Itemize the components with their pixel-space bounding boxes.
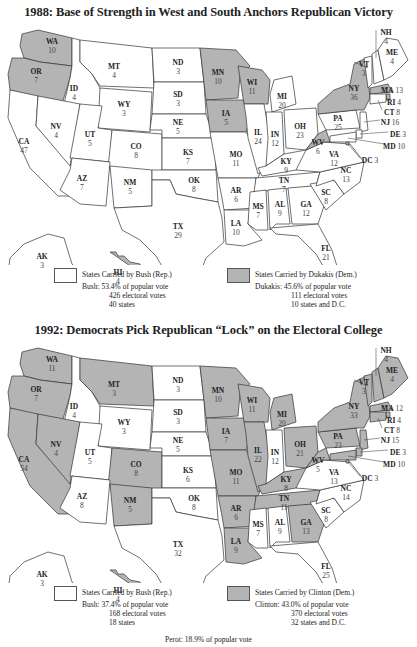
state-abbrev: DC xyxy=(362,474,373,483)
electoral-votes: 7 xyxy=(30,394,41,403)
state-label-nv: NV4 xyxy=(51,440,62,458)
state-label-tn: TN7 xyxy=(279,176,289,194)
state-label-va: VA13 xyxy=(329,468,339,486)
electoral-votes: 15 xyxy=(392,436,400,445)
electoral-votes: 25 xyxy=(321,571,331,580)
electoral-votes: 3 xyxy=(118,109,131,118)
electoral-votes: 8 xyxy=(396,426,400,435)
electoral-votes: 4 xyxy=(397,98,401,107)
state-abbrev: SC xyxy=(321,506,331,515)
electoral-votes: 5 xyxy=(173,127,183,136)
electoral-votes: 33 xyxy=(349,411,360,420)
state-label-pa: PA25 xyxy=(333,114,342,132)
state-label-mn: MN10 xyxy=(212,386,225,404)
legend-swatch-republican xyxy=(54,586,77,601)
state-label-ak: AK3 xyxy=(36,252,47,270)
state-abbrev: NY xyxy=(349,402,360,411)
state-label-ok: OK8 xyxy=(188,494,200,512)
state-abbrev: ND xyxy=(173,58,184,67)
legend-caption: States Carried by Clinton (Dem.) xyxy=(255,588,354,597)
electoral-votes: 32 xyxy=(173,549,183,558)
us-map-1992 xyxy=(0,318,417,583)
electoral-votes: 4 xyxy=(386,375,398,384)
state-abbrev: ND xyxy=(173,376,184,385)
legend-states: 32 states and D.C. xyxy=(255,618,349,627)
electoral-votes: 3 xyxy=(402,448,406,457)
state-label-oh: OH23 xyxy=(294,122,306,140)
state-label-mo: MO11 xyxy=(230,150,243,168)
state-abbrev: NJ xyxy=(381,118,390,127)
electoral-votes: 4 xyxy=(386,57,398,66)
state-label-ca: CA47 xyxy=(19,137,30,155)
state-label-wa: WA11 xyxy=(46,355,58,373)
state-abbrev: VA xyxy=(329,150,339,159)
state-label-tn: TN11 xyxy=(279,494,289,512)
electoral-votes: 3 xyxy=(36,261,47,270)
state-label-me: ME4 xyxy=(386,48,398,66)
state-abbrev: AZ xyxy=(77,492,87,501)
state-abbrev: KS xyxy=(183,466,193,475)
state-label-wy: WY3 xyxy=(118,100,131,118)
state-abbrev: MT xyxy=(108,380,120,389)
state-label-dc: DC 3 xyxy=(362,474,378,483)
state-ak xyxy=(6,234,90,265)
state-abbrev: KY xyxy=(280,475,291,484)
state-label-dc: DC 3 xyxy=(362,156,378,165)
state-abbrev: IL xyxy=(254,446,262,455)
state-abbrev: OH xyxy=(294,440,306,449)
state-abbrev: DC xyxy=(362,156,373,165)
electoral-votes: 6 xyxy=(312,147,325,156)
state-ct xyxy=(370,94,386,104)
electoral-votes: 8 xyxy=(280,484,291,493)
state-label-sc: SC8 xyxy=(321,506,331,524)
state-label-wi: WI11 xyxy=(247,78,257,96)
state-abbrev: GA xyxy=(300,518,311,527)
state-label-de: DE 3 xyxy=(390,130,406,139)
state-abbrev: OK xyxy=(188,176,200,185)
state-abbrev: MO xyxy=(230,150,243,159)
state-abbrev: WV xyxy=(312,138,325,147)
state-label-al: AL9 xyxy=(275,518,285,536)
state-label-nv: NV4 xyxy=(51,122,62,140)
state-abbrev: AK xyxy=(36,252,47,261)
state-abbrev: CT xyxy=(384,426,394,435)
state-label-nc: NC14 xyxy=(341,484,352,502)
state-label-nh: NH4 xyxy=(380,346,391,364)
legend-popular-vote: Clinton: 43.0% of popular vote xyxy=(255,600,349,609)
state-abbrev: MA xyxy=(381,404,394,413)
state-abbrev: ME xyxy=(386,48,398,57)
state-abbrev: MI xyxy=(277,410,287,419)
electoral-votes: 13 xyxy=(395,86,403,95)
electoral-votes: 8 xyxy=(77,501,87,510)
electoral-votes: 9 xyxy=(275,527,285,536)
state-label-az: AZ8 xyxy=(77,492,87,510)
legend-caption: States Carried by Bush (Rep.) xyxy=(82,270,172,279)
state-abbrev: NH xyxy=(380,346,391,355)
state-abbrev: CT xyxy=(384,108,394,117)
state-label-ne: NE5 xyxy=(173,436,183,454)
state-abbrev: UT xyxy=(85,130,95,139)
electoral-votes: 29 xyxy=(173,231,183,240)
state-abbrev: NJ xyxy=(381,436,390,445)
state-label-ks: KS7 xyxy=(183,148,193,166)
state-abbrev: TX xyxy=(173,222,183,231)
electoral-votes: 4 xyxy=(70,93,78,102)
state-abbrev: LA xyxy=(231,537,241,546)
state-label-mt: MT4 xyxy=(108,62,120,80)
electoral-votes: 5 xyxy=(222,118,230,127)
state-abbrev: RI xyxy=(387,98,395,107)
electoral-votes: 24 xyxy=(254,137,262,146)
electoral-votes: 6 xyxy=(231,195,242,204)
state-hi xyxy=(110,252,142,265)
electoral-votes: 3 xyxy=(359,387,369,396)
state-abbrev: MN xyxy=(212,68,225,77)
electoral-votes: 8 xyxy=(130,151,141,160)
electoral-votes: 47 xyxy=(19,146,30,155)
electoral-votes: 4 xyxy=(51,449,62,458)
perot-footnote: Perot: 18.9% of popular vote xyxy=(0,635,417,644)
state-label-tx: TX29 xyxy=(173,222,183,240)
state-abbrev: SD xyxy=(173,408,183,417)
electoral-votes: 8 xyxy=(130,469,141,478)
state-abbrev: PA xyxy=(333,432,342,441)
electoral-votes: 10 xyxy=(46,46,58,55)
